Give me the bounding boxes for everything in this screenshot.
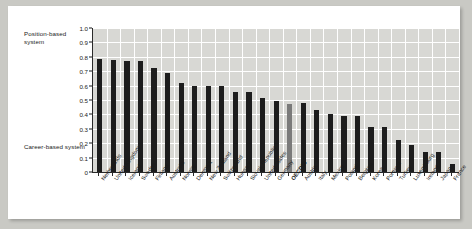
x-axis-tick-mark (180, 173, 181, 176)
bar[interactable] (314, 110, 319, 172)
x-axis-label-slot: Slovak Republic (241, 177, 255, 229)
x-axis-tick-mark (356, 173, 357, 176)
bar[interactable] (138, 61, 143, 172)
y-axis-tick-label: 0.2 (79, 140, 88, 147)
x-axis-tick-mark (153, 173, 154, 176)
x-axis-label-slot: Germany (268, 177, 282, 229)
x-axis-tick-mark (166, 173, 167, 176)
x-axis-tick-mark (342, 173, 343, 176)
bar-slot (229, 28, 243, 172)
chart-card: Position-based system Career-based syste… (8, 6, 460, 219)
x-axis-label-slot: Italy (309, 177, 323, 229)
x-axis-label-slot: Turkey (390, 177, 404, 229)
y-axis-tick-label: 0.8 (79, 53, 88, 60)
bar-slot (283, 28, 297, 172)
figure-container: Position-based system Career-based syste… (0, 0, 472, 229)
y-axis-tick-label: 0.6 (79, 82, 88, 89)
bar[interactable] (97, 59, 102, 172)
y-axis: 1.00.90.80.70.60.50.40.30.20.10 (75, 28, 92, 172)
x-axis-tick-mark (302, 173, 303, 176)
x-axis-label-slot: Hungary (228, 177, 242, 229)
x-axis-tick-mark (424, 173, 425, 176)
bar-slot (419, 28, 433, 172)
x-axis-tick-mark (383, 173, 384, 176)
bar-slot (188, 28, 202, 172)
x-axis-label-slot: Luxembourg (404, 177, 418, 229)
y-axis-tick-label: 0.1 (79, 154, 88, 161)
x-axis-tick-mark (112, 173, 113, 176)
x-axis-label-slot: OECD26 (282, 177, 296, 229)
bar-slot (242, 28, 256, 172)
x-axis-label-slot: Sweden (133, 177, 147, 229)
bar[interactable] (192, 86, 197, 172)
bar-slot (296, 28, 310, 172)
x-axis-tick-mark (98, 173, 99, 176)
x-axis-tick-mark (370, 173, 371, 176)
x-axis-label-slot: France (445, 177, 459, 229)
plot-wrapper: 1.00.90.80.70.60.50.40.30.20.10 Netherla… (92, 28, 458, 174)
x-axis-label-slot: Korea (363, 177, 377, 229)
x-axis-label-slot: United Kingdom (106, 177, 120, 229)
y-axis-tick-label: 0 (85, 169, 88, 176)
x-axis-label-slot: Iceland (119, 177, 133, 229)
x-axis-tick-mark (437, 173, 438, 176)
x-axis-tick-mark (410, 173, 411, 176)
y-axis-tick-label: 0.3 (79, 125, 88, 132)
bar-slot (93, 28, 107, 172)
bar[interactable] (382, 127, 387, 172)
x-axis-tick-mark (139, 173, 140, 176)
x-axis-tick-mark (207, 173, 208, 176)
x-axis-tick-mark (193, 173, 194, 176)
bar[interactable] (165, 73, 170, 172)
bar-slot (446, 28, 460, 172)
bar-slot (405, 28, 419, 172)
bar-slot (174, 28, 188, 172)
bar-slot (432, 28, 446, 172)
x-axis-tick-mark (315, 173, 316, 176)
x-axis-tick-mark (329, 173, 330, 176)
bar-slot (378, 28, 392, 172)
bar-slot (324, 28, 338, 172)
x-axis-tick-mark (247, 173, 248, 176)
x-axis-labels: NetherlandsUnited KingdomIcelandSwedenFi… (92, 177, 458, 229)
y-axis-tick-label: 0.9 (79, 39, 88, 46)
x-axis-tick-mark (451, 173, 452, 176)
x-axis-label-slot: Australia (160, 177, 174, 229)
y-axis-tick-label: 1.0 (79, 25, 88, 32)
bar[interactable] (179, 83, 184, 172)
bar-slot (391, 28, 405, 172)
x-axis-tick-mark (125, 173, 126, 176)
x-axis-label-slot: Belgium (350, 177, 364, 229)
x-axis-label-slot: Poland (336, 177, 350, 229)
plot-area (92, 28, 459, 173)
x-axis-label-slot: New Zealand (201, 177, 215, 229)
x-axis-label-slot: Finland (146, 177, 160, 229)
x-axis-label-slot: Netherlands (92, 177, 106, 229)
bar-slot (310, 28, 324, 172)
bar-slot (147, 28, 161, 172)
bar[interactable] (151, 68, 156, 172)
x-axis-label-slot: Japan (431, 177, 445, 229)
bar-slot (202, 28, 216, 172)
y-axis-tick-label: 0.7 (79, 68, 88, 75)
bar-slot (161, 28, 175, 172)
y-axis-tick-label: 0.5 (79, 97, 88, 104)
y-axis-tick-label: 0.4 (79, 111, 88, 118)
x-axis-tick-mark (397, 173, 398, 176)
x-axis-label-slot: Denmark (187, 177, 201, 229)
x-axis-label-slot: United States (255, 177, 269, 229)
x-axis-label-slot: Norway (173, 177, 187, 229)
x-axis-tick-mark (261, 173, 262, 176)
bar-slot (364, 28, 378, 172)
x-axis-label-slot: Switzerland (214, 177, 228, 229)
x-axis-label-slot: Mexico (323, 177, 337, 229)
x-axis-tick-mark (275, 173, 276, 176)
x-axis-label-slot: Austria (295, 177, 309, 229)
bar-slot (337, 28, 351, 172)
x-axis-label-slot: Ireland (418, 177, 432, 229)
x-axis-tick-mark (288, 173, 289, 176)
x-axis-tick-mark (220, 173, 221, 176)
bar-slot (107, 28, 121, 172)
x-axis-tick-mark (234, 173, 235, 176)
bar[interactable] (328, 114, 333, 172)
